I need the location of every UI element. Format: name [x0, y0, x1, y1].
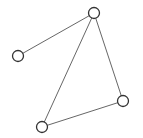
graph-edges: [18, 13, 123, 127]
edge-right-bottom: [42, 101, 123, 127]
node-top: [89, 8, 100, 19]
node-bottom: [37, 122, 48, 133]
edge-top-bottom: [42, 13, 94, 127]
edge-top-right: [94, 13, 123, 101]
node-left: [13, 51, 24, 62]
node-right: [118, 96, 129, 107]
network-graph: [0, 0, 143, 138]
edge-top-left: [18, 13, 94, 56]
